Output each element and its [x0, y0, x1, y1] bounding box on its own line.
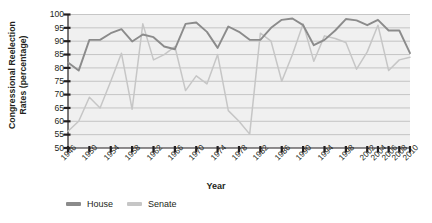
- x-tick-label: 1998: [337, 143, 356, 162]
- legend-swatch-house: [66, 202, 81, 206]
- x-axis-title: Year: [0, 181, 432, 191]
- x-tick-label: 1966: [166, 143, 185, 162]
- x-tick-label: 1986: [273, 143, 292, 162]
- x-tick-label: 1978: [230, 143, 249, 162]
- legend-item-senate[interactable]: Senate: [127, 199, 177, 209]
- x-tick-label: 1950: [80, 143, 99, 162]
- x-tick-label: 1974: [209, 143, 228, 162]
- x-tick-label: 1982: [251, 143, 270, 162]
- x-tick-label: 1954: [102, 143, 121, 162]
- x-tick-label: 1958: [123, 143, 142, 162]
- x-tick-label: 1990: [294, 143, 313, 162]
- legend-label: House: [87, 199, 113, 209]
- x-tick-label: 1962: [145, 143, 164, 162]
- chart-legend: HouseSenate: [66, 199, 177, 209]
- reelection-rates-chart: Congressional Reelection Rates (percenta…: [0, 0, 432, 223]
- x-tick-label: 1994: [316, 143, 335, 162]
- legend-label: Senate: [148, 199, 177, 209]
- legend-item-house[interactable]: House: [66, 199, 113, 209]
- x-tick-label: 1970: [187, 143, 206, 162]
- legend-swatch-senate: [127, 202, 142, 206]
- x-tick-label: 1946: [59, 143, 78, 162]
